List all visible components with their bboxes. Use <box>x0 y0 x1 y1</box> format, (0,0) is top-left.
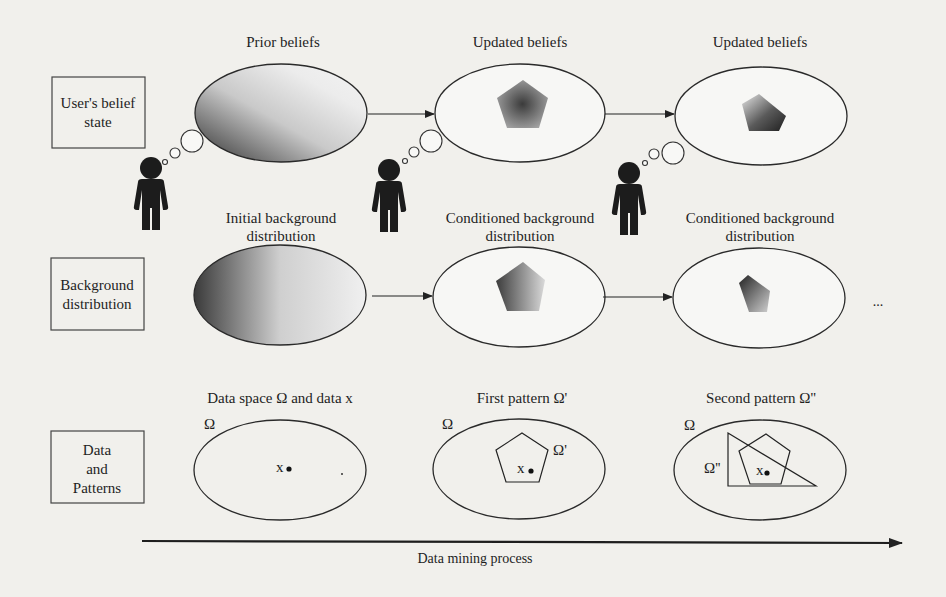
pattern-pentagon <box>739 434 790 484</box>
prior-belief-ellipse <box>195 64 367 162</box>
stage-first-pattern: First pattern Ω' Ω Ω' x <box>433 390 605 519</box>
stage-updated-beliefs-1: Updated beliefs <box>435 34 605 162</box>
person-thinking-icon <box>134 130 203 230</box>
data-point-dot <box>286 466 291 471</box>
space-omega-label: Ω <box>684 417 695 433</box>
row-label-data-and-patterns: Data and Patterns <box>51 431 144 503</box>
stage-title: Conditioned background <box>446 210 595 226</box>
stage-title: distribution <box>485 228 555 244</box>
data-point-label: x <box>517 460 525 476</box>
stage-second-pattern: Second pattern Ω'' Ω Ω'' x <box>674 390 846 520</box>
data-point-dot <box>764 470 769 475</box>
continuation-ellipsis: ... <box>873 294 884 309</box>
stage-title: Conditioned background <box>686 210 835 226</box>
stage-title: distribution <box>246 228 316 244</box>
stage-data-space: Data space Ω and data x Ω x <box>194 390 366 520</box>
stage-title: Second pattern Ω'' <box>706 390 816 406</box>
row-label-line: Patterns <box>73 480 121 496</box>
pattern-label: Ω' <box>553 442 567 458</box>
row-label-belief-state: User's belief state <box>52 77 145 148</box>
stage-initial-background: Initial background distribution <box>194 210 366 345</box>
stage-title: distribution <box>725 228 795 244</box>
noise-speck <box>341 473 343 475</box>
timeline-label: Data mining process <box>417 551 532 566</box>
row-label-line: distribution <box>62 296 132 312</box>
data-point-label: x <box>756 462 764 478</box>
space-omega-label: Ω <box>204 416 215 432</box>
timeline-arrow <box>142 541 902 543</box>
stage-conditioned-background-1: Conditioned background distribution <box>433 210 605 347</box>
stage-title: Data space Ω and data x <box>207 390 353 406</box>
data-point-dot <box>528 468 533 473</box>
pattern-label: Ω'' <box>704 460 721 476</box>
data-mining-belief-diagram: User's belief state Background distribut… <box>0 0 946 597</box>
space-omega-label: Ω <box>442 416 453 432</box>
row-label-line: Data <box>83 442 112 458</box>
data-point-label: x <box>276 459 284 475</box>
person-thinking-icon <box>612 142 684 235</box>
row-label-line: Background <box>60 277 134 293</box>
stage-title: Updated beliefs <box>713 34 808 50</box>
stage-title: Prior beliefs <box>246 34 320 50</box>
stage-prior-beliefs: Prior beliefs <box>195 34 367 162</box>
row-label-line: and <box>86 461 108 477</box>
row-label-line: state <box>84 114 112 130</box>
stage-title: Updated beliefs <box>473 34 568 50</box>
row-label-line: User's belief <box>61 95 136 111</box>
background-ellipse <box>194 245 366 345</box>
row-label-background-distribution: Background distribution <box>51 258 144 330</box>
stage-conditioned-background-2: Conditioned background distribution <box>673 210 845 348</box>
stage-updated-beliefs-2: Updated beliefs <box>675 34 847 165</box>
stage-title: First pattern Ω' <box>477 390 568 406</box>
pattern-triangle <box>728 433 816 486</box>
person-thinking-icon <box>372 130 442 232</box>
stage-title: Initial background <box>226 210 337 226</box>
